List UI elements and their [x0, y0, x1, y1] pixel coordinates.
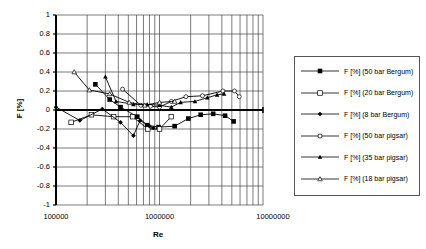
legend-label: F [%] (20 bar Bergum) — [344, 89, 413, 96]
legend-label: F [%] (18 bar pigsar) — [344, 175, 408, 182]
y-tick-label: 0 — [20, 105, 50, 114]
series-4 — [103, 74, 226, 109]
legend-item: F [%] (8 bar Bergum) — [299, 108, 409, 120]
y-tick-label: 1 — [20, 10, 50, 19]
x-tick-label: 100000 — [26, 212, 86, 221]
series-3 — [121, 87, 242, 109]
y-tick-label: -0.6 — [20, 162, 50, 171]
legend-item: F [%] (50 bar pigsar) — [299, 130, 408, 142]
x-tick-label: 1000000 — [130, 212, 190, 221]
y-tick-label: -0.2 — [20, 124, 50, 133]
legend-label: F [%] (8 bar Bergum) — [344, 111, 409, 118]
legend-marker-icon — [299, 130, 341, 142]
legend-label: F [%] (50 bar pigsar) — [344, 132, 408, 139]
y-tick-label: 0.2 — [20, 86, 50, 95]
x-tick-label: 10000000 — [243, 212, 303, 221]
legend-item: F [%] (50 bar Bergum) — [299, 65, 413, 77]
legend-marker-icon — [299, 87, 341, 99]
x-axis-label: Re — [153, 230, 163, 239]
legend-marker-icon — [299, 151, 341, 163]
legend-marker-icon — [299, 173, 341, 185]
legend-label: F [%] (35 bar pigsar) — [344, 154, 408, 161]
legend-marker-icon — [299, 65, 341, 77]
chart-legend: F [%] (50 bar Bergum)F [%] (20 bar Bergu… — [294, 56, 420, 196]
legend-item: F [%] (20 bar Bergum) — [299, 87, 413, 99]
legend-marker-icon — [299, 108, 341, 120]
legend-item: F [%] (18 bar pigsar) — [299, 173, 408, 185]
y-tick-label: 0.6 — [20, 48, 50, 57]
legend-label: F [%] (50 bar Bergum) — [344, 68, 413, 75]
y-tick-label: -0.8 — [20, 181, 50, 190]
y-tick-label: -1 — [20, 200, 50, 209]
y-tick-label: 0.8 — [20, 29, 50, 38]
legend-item: F [%] (35 bar pigsar) — [299, 151, 408, 163]
y-tick-label: 0.4 — [20, 67, 50, 76]
y-tick-label: -0.4 — [20, 143, 50, 152]
